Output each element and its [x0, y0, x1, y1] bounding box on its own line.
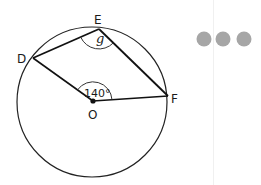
- more-dots-icon[interactable]: [197, 32, 252, 47]
- chord-de: [33, 29, 99, 58]
- angle-label-g: g: [96, 31, 104, 46]
- dot-icon: [216, 32, 231, 47]
- dot-icon: [197, 32, 212, 47]
- label-e: E: [94, 13, 102, 27]
- dot-icon: [237, 32, 252, 47]
- label-f: F: [171, 92, 178, 106]
- label-d: D: [17, 52, 26, 66]
- angle-label-140: 140°: [84, 87, 111, 100]
- label-o: O: [88, 108, 97, 122]
- circle-diagram: E D F O g 140°: [0, 0, 261, 185]
